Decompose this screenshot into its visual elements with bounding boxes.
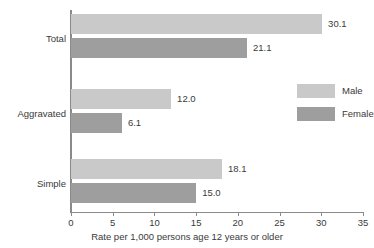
x-tick-mark <box>363 212 364 216</box>
x-tick-mark <box>113 212 114 216</box>
x-tick-label: 15 <box>191 217 202 228</box>
x-tick-mark <box>280 212 281 216</box>
legend-swatch-male-icon <box>297 84 335 98</box>
bar-value-simple-female: 15.0 <box>202 183 221 203</box>
bar-simple-male <box>71 159 222 179</box>
legend-label-male: Male <box>342 84 363 98</box>
bar-aggravated-female <box>71 113 122 133</box>
bar-chart: Total Aggravated Simple 30.1 21.1 12.0 6… <box>0 0 374 248</box>
bar-total-male <box>71 14 322 34</box>
category-label-simple: Simple <box>0 178 66 190</box>
x-axis-line <box>71 212 363 213</box>
bar-value-aggravated-male: 12.0 <box>177 89 196 109</box>
category-label-text: Total <box>46 33 66 44</box>
x-tick-mark <box>71 212 72 216</box>
bar-simple-female <box>71 183 196 203</box>
category-label-text: Aggravated <box>17 108 66 119</box>
bar-value-simple-male: 18.1 <box>228 159 247 179</box>
x-axis-title: Rate per 1,000 persons age 12 years or o… <box>0 231 374 242</box>
x-tick-label: 0 <box>68 217 73 228</box>
x-tick-label: 20 <box>233 217 244 228</box>
x-tick-label: 25 <box>274 217 285 228</box>
x-tick-mark <box>321 212 322 216</box>
x-tick-label: 10 <box>149 217 160 228</box>
bar-value-total-female: 21.1 <box>253 38 272 58</box>
bar-aggravated-male <box>71 89 171 109</box>
x-tick-mark <box>196 212 197 216</box>
x-tick-mark <box>238 212 239 216</box>
x-tick-label: 30 <box>316 217 327 228</box>
category-label-text: Simple <box>37 178 66 189</box>
category-label-aggravated: Aggravated <box>0 108 66 120</box>
category-label-total: Total <box>0 33 66 45</box>
x-tick-label: 5 <box>110 217 115 228</box>
bar-value-aggravated-female: 6.1 <box>128 113 141 133</box>
legend-label-female: Female <box>342 107 374 121</box>
bar-value-total-male: 30.1 <box>328 14 347 34</box>
legend-swatch-female-icon <box>297 107 335 121</box>
bar-total-female <box>71 38 247 58</box>
x-tick-label: 35 <box>358 217 369 228</box>
x-tick-mark <box>154 212 155 216</box>
